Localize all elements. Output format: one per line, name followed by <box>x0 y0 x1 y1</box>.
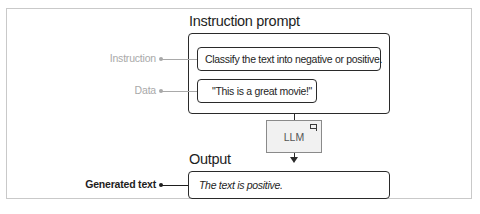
generated-text-connector-line <box>161 185 188 186</box>
generated-text-label: Generated text <box>85 178 156 190</box>
instruction-connector-line <box>161 59 197 60</box>
llm-label: LLM <box>284 131 304 143</box>
instruction-text-box: Classify the text into negative or posit… <box>197 47 381 71</box>
output-section-title: Output <box>189 151 231 167</box>
data-connector-line <box>161 91 197 92</box>
output-text-box: The text is positive. <box>188 171 390 199</box>
llm-box: LLM <box>266 120 322 153</box>
prompt-section-title: Instruction prompt <box>189 13 300 29</box>
chat-bubble-icon <box>310 124 317 129</box>
data-label: Data <box>135 84 156 96</box>
instruction-label: Instruction <box>110 52 156 64</box>
arrow-down-icon <box>290 157 298 163</box>
data-text-box: "This is a great movie!" <box>197 79 317 103</box>
